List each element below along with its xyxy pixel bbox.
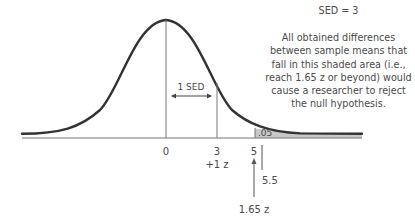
tick-sublabel-plus-1z: +1 z <box>205 159 228 170</box>
critical-z-label: 1.65 z <box>239 204 270 215</box>
tick-label-3: 3 <box>214 146 220 157</box>
tick-label-5: 5 <box>251 146 257 157</box>
critical-value-label: 5.5 <box>262 175 278 186</box>
shaded-area-label: .05 <box>258 128 272 138</box>
sed-value-label: SED = 3 <box>262 4 415 17</box>
sed-double-arrow <box>171 94 212 99</box>
critical-z-arrow <box>252 158 257 197</box>
rejection-explanation: All obtained differences between sample … <box>262 31 415 110</box>
tick-label-0: 0 <box>163 146 169 157</box>
sed-bracket-label: 1 SED <box>178 82 205 92</box>
annotation-block: SED = 3 All obtained differences between… <box>262 0 415 110</box>
